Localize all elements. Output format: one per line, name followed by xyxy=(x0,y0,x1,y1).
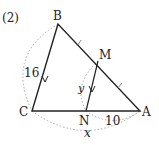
point-c-label: C xyxy=(19,105,28,119)
point-a-label: A xyxy=(141,105,151,119)
problem-label: (2) xyxy=(2,11,19,25)
tick-mark-bm xyxy=(78,40,81,45)
point-b-label: B xyxy=(53,9,62,23)
tick-mark-ma xyxy=(118,83,122,88)
length-mn-label: y xyxy=(77,82,85,95)
length-bc-label: 16 xyxy=(24,66,39,80)
triangle-figure: (2) B C A M N 16 10 y x xyxy=(0,0,159,145)
length-na-label: 10 xyxy=(105,114,120,128)
length-ca-label: x xyxy=(84,126,91,140)
point-m-label: M xyxy=(99,48,111,62)
geometry-diagram: (2) B C A M N 16 10 y x xyxy=(0,0,159,145)
parallel-arrow-bc-icon xyxy=(42,76,48,82)
triangle-abc xyxy=(32,24,140,111)
segment-mn xyxy=(86,61,98,111)
